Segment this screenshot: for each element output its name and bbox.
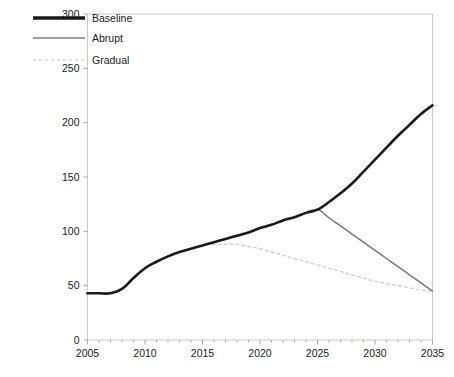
x-axis-tick-labels: 2005201020152020202520302035 [76,347,445,359]
y-tick-label: 200 [62,116,80,128]
y-tick-label: 100 [62,225,80,237]
line-chart: 050100150200250300 200520102015202020252… [0,0,454,377]
legend-label-baseline: Baseline [92,12,132,24]
y-tick-label: 250 [62,62,80,74]
chart-canvas: 050100150200250300 200520102015202020252… [0,0,454,377]
x-tick-label: 2025 [306,347,330,359]
chart-legend: BaselineAbruptGradual [33,12,132,66]
y-tick-label: 150 [62,171,80,183]
x-tick-label: 2030 [363,347,387,359]
y-axis-ticks [84,14,88,340]
x-axis-ticks [88,340,433,345]
series-line-abrupt [88,209,433,293]
legend-label-gradual: Gradual [92,54,129,66]
series-line-baseline [88,105,433,293]
x-tick-label: 2020 [248,347,272,359]
y-axis-tick-labels: 050100150200250300 [62,8,80,346]
x-tick-label: 2035 [421,347,445,359]
x-tick-label: 2005 [76,347,100,359]
series-line-gradual [88,244,433,294]
x-tick-label: 2010 [133,347,157,359]
plot-frame [88,14,433,340]
x-tick-label: 2015 [191,347,215,359]
y-tick-label: 0 [74,334,80,346]
y-tick-label: 50 [68,279,80,291]
legend-label-abrupt: Abrupt [92,32,123,44]
data-series-group [88,105,433,293]
